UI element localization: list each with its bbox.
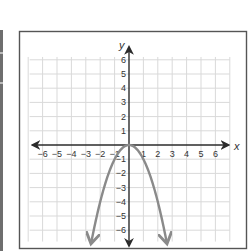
x-tick-label: 2 [155, 149, 160, 159]
y-tick-label: −3 [116, 183, 126, 193]
y-tick-label: 6 [121, 55, 126, 65]
x-axis-label: x [233, 140, 240, 152]
coordinate-plane: −6−5−4−3−2−1123456654321−1−2−3−4−5−6xy [0, 0, 249, 251]
x-tick-label: −6 [37, 149, 47, 159]
y-tick-label: 1 [121, 126, 126, 136]
x-tick-label: −3 [81, 149, 91, 159]
y-tick-label: 2 [121, 112, 126, 122]
x-tick-label: 3 [170, 149, 175, 159]
y-tick-label: 4 [121, 83, 126, 93]
y-tick-label: −2 [116, 168, 126, 178]
x-tick-label: 4 [184, 149, 189, 159]
y-tick-label: −5 [116, 211, 126, 221]
x-tick-label: 6 [213, 149, 218, 159]
x-tick-label: −2 [95, 149, 105, 159]
y-tick-label: −6 [116, 225, 126, 235]
x-tick-label: −4 [66, 149, 76, 159]
y-tick-label: −4 [116, 197, 126, 207]
y-tick-label: 3 [121, 97, 126, 107]
y-tick-label: 5 [121, 69, 126, 79]
x-tick-label: −5 [52, 149, 62, 159]
x-tick-label: 5 [198, 149, 203, 159]
